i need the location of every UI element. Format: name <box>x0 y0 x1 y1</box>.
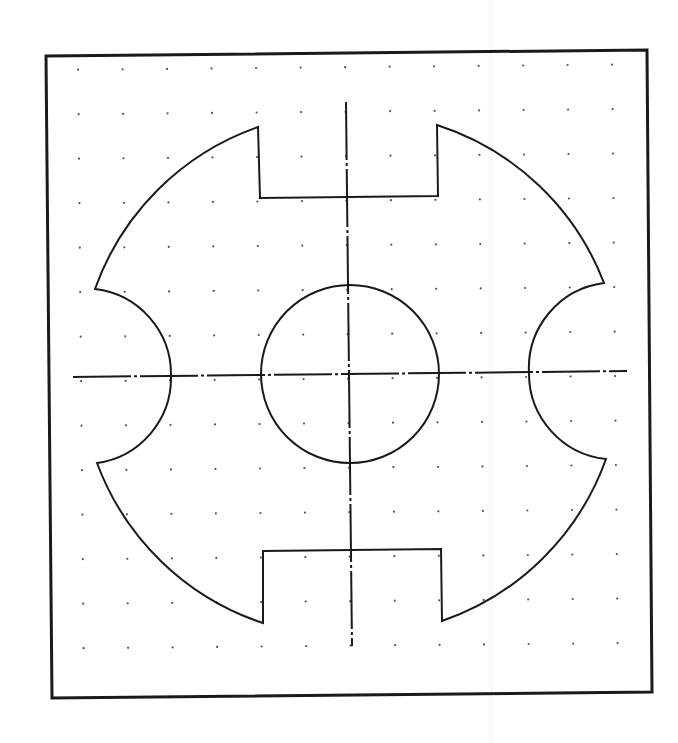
grid-dot <box>481 421 483 423</box>
grid-dot <box>479 198 481 200</box>
grid-dot <box>303 423 305 425</box>
grid-dot <box>126 558 128 560</box>
grid-dot <box>525 376 527 378</box>
grid-dot <box>393 555 395 557</box>
grid-dot <box>570 420 572 422</box>
grid-dot <box>481 465 483 467</box>
grid-dot <box>572 598 574 600</box>
grid-dot <box>434 199 436 201</box>
grid-dot <box>613 286 615 288</box>
grid-dot <box>124 291 126 293</box>
grid-dot <box>482 510 484 512</box>
grid-dot <box>78 113 80 115</box>
grid-dot <box>434 154 436 156</box>
grid-dot <box>212 201 214 203</box>
grid-dot <box>525 331 527 333</box>
grid-dot <box>616 598 618 600</box>
center-cross-mark <box>345 370 353 378</box>
grid-dot <box>523 198 525 200</box>
grid-dot <box>302 289 304 291</box>
grid-dot <box>527 554 529 556</box>
grid-dot <box>616 553 618 555</box>
grid-dot <box>391 333 393 335</box>
grid-dot <box>301 200 303 202</box>
grid-dot <box>568 197 570 199</box>
grid-dot <box>567 64 569 66</box>
grid-dot <box>123 202 125 204</box>
grid-dot <box>81 514 83 516</box>
grid-dot <box>433 65 435 67</box>
grid-dot <box>305 645 307 647</box>
grid-dot <box>390 244 392 246</box>
grid-dot <box>439 644 441 646</box>
grid-dot <box>125 469 127 471</box>
grid-dot <box>78 202 80 204</box>
grid-dot <box>167 157 169 159</box>
grid-dot <box>612 153 614 155</box>
grid-dot <box>257 245 259 247</box>
grid-dot <box>300 156 302 158</box>
grid-dot <box>212 245 214 247</box>
grid-dot <box>344 66 346 68</box>
grid-dot <box>216 646 218 648</box>
grid-dot <box>215 557 217 559</box>
grid-dot <box>123 246 125 248</box>
grid-dot <box>77 69 79 71</box>
grid-dot <box>436 377 438 379</box>
grid-dot <box>211 67 213 69</box>
grid-dot <box>483 599 485 601</box>
grid-dot <box>214 468 216 470</box>
grid-dot <box>213 290 215 292</box>
grid-dot <box>571 553 573 555</box>
grid-dot <box>389 66 391 68</box>
grid-dot <box>304 511 306 513</box>
grid-dot <box>79 291 81 293</box>
grid-dot <box>483 643 485 645</box>
grid-dot <box>568 242 570 244</box>
grid-dot <box>260 601 262 603</box>
grid-dot <box>522 64 524 66</box>
grid-dot <box>392 422 394 424</box>
grid-dot <box>258 334 260 336</box>
grid-dot <box>524 287 526 289</box>
grid-dot <box>434 110 436 112</box>
grid-dot <box>389 155 391 157</box>
grid-dot <box>168 246 170 248</box>
grid-dot <box>170 468 172 470</box>
grid-dot <box>80 336 82 338</box>
grid-dot <box>438 599 440 601</box>
grid-dot <box>572 642 574 644</box>
grid-dot <box>569 331 571 333</box>
grid-dot <box>260 556 262 558</box>
grid-dot <box>615 509 617 511</box>
grid-dot <box>523 153 525 155</box>
grid-dot <box>392 466 394 468</box>
grid-dot <box>300 111 302 113</box>
grid-dot <box>615 464 617 466</box>
grid-dot <box>171 557 173 559</box>
grid-dot <box>614 375 616 377</box>
grid-dot <box>570 375 572 377</box>
grid-dot <box>83 647 85 649</box>
grid-dot <box>168 290 170 292</box>
grid-dot <box>259 512 261 514</box>
grid-dot <box>300 67 302 69</box>
grid-dot <box>82 558 84 560</box>
grid-dot <box>213 334 215 336</box>
grid-dot <box>301 245 303 247</box>
grid-dot <box>166 68 168 70</box>
grid-dot <box>528 643 530 645</box>
grid-dot <box>303 467 305 469</box>
grid-dot <box>394 600 396 602</box>
grid-dot <box>126 513 128 515</box>
grid-dot <box>127 647 129 649</box>
grid-dot <box>255 67 257 69</box>
grid-dot <box>612 108 614 110</box>
grid-dot <box>79 247 81 249</box>
grid-dot <box>81 469 83 471</box>
grid-dot <box>80 380 82 382</box>
grid-dot <box>526 509 528 511</box>
grid-dot <box>571 509 573 511</box>
grid-dot <box>170 513 172 515</box>
grid-dot <box>261 645 263 647</box>
